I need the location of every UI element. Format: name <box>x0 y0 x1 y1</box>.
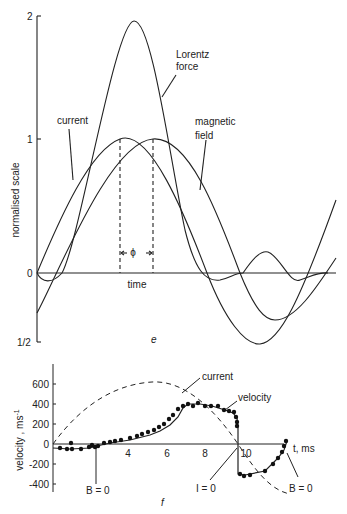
ytick-m200: -200 <box>29 459 49 470</box>
y-axis-label-f: velocity , ms-1 <box>13 409 25 470</box>
xtick-4: 4 <box>125 448 131 459</box>
xtick-6: 6 <box>164 448 170 459</box>
chart-f <box>53 364 298 494</box>
velocity-label: velocity <box>238 392 271 403</box>
ytick-0: 0 <box>27 268 33 279</box>
current-leader <box>69 129 73 180</box>
current-leader-f <box>182 378 200 393</box>
b0-right-leader <box>287 453 298 477</box>
xtick-10: 10 <box>240 448 252 459</box>
x-axis-label-e: time <box>128 279 147 290</box>
chart-f-labels: 600 400 200 0 -200 -400 4 6 8 10 t, ms v… <box>13 371 315 508</box>
current-label-f: current <box>202 371 233 382</box>
current-label: current <box>57 115 88 126</box>
i0-label: I = 0 <box>196 483 216 494</box>
velocity-leader <box>225 401 237 410</box>
ytick-0-f: 0 <box>43 439 49 450</box>
ytick-400: 400 <box>32 399 49 410</box>
magnetic-label: magnetic <box>195 116 236 127</box>
y-axis-label-e: normalised scale <box>10 162 21 237</box>
lorentz-label-2: force <box>176 61 199 72</box>
figure: 2 1 0 1/2 normalised scale time Lorentz … <box>0 0 347 514</box>
ytick-2: 2 <box>27 11 33 22</box>
ytick-m400: -400 <box>29 479 49 490</box>
ytick-half: 1/2 <box>17 337 31 348</box>
i0-leader <box>210 448 237 480</box>
velocity-points <box>58 401 288 478</box>
caption-f: f <box>161 497 165 508</box>
b0-left-label: B = 0 <box>86 485 110 496</box>
b0-right-label: B = 0 <box>289 483 313 494</box>
magnetic-field-curve <box>37 139 336 320</box>
xtick-8: 8 <box>202 448 208 459</box>
magnetic-leader <box>200 140 206 190</box>
ytick-200: 200 <box>32 419 49 430</box>
lorentz-leader <box>162 75 176 97</box>
magnetic-label-2: field <box>195 130 213 141</box>
phi-label: ϕ <box>130 247 136 258</box>
caption-e: e <box>151 334 157 345</box>
current-curve <box>37 138 336 344</box>
lorentz-label: Lorentz <box>176 49 209 60</box>
ytick-1: 1 <box>27 134 33 145</box>
ytick-600: 600 <box>32 379 49 390</box>
x-axis-label-f: t, ms <box>293 443 315 454</box>
